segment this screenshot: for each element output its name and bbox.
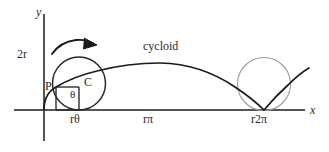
cycloid-diagram-page: y x 2r P C θ rθ rπ r2π cycloid	[0, 0, 329, 152]
label-r2pi: r2π	[251, 113, 267, 125]
label-2r: 2r	[17, 48, 27, 60]
y-axis-label: y	[36, 6, 41, 18]
ghost-circle-at-r2pi	[238, 58, 291, 111]
label-rpi: rπ	[143, 113, 153, 125]
rotation-arrow-head-icon	[83, 38, 97, 49]
label-point-p: P	[45, 80, 52, 92]
cycloid-figure	[0, 0, 329, 152]
x-axis-label: x	[310, 104, 315, 116]
cycloid-curve-arch-two	[264, 68, 309, 110]
label-arc-rtheta: rθ	[70, 113, 80, 125]
label-cycloid: cycloid	[143, 40, 178, 52]
label-angle-theta: θ	[70, 89, 75, 100]
label-point-c: C	[84, 76, 92, 88]
